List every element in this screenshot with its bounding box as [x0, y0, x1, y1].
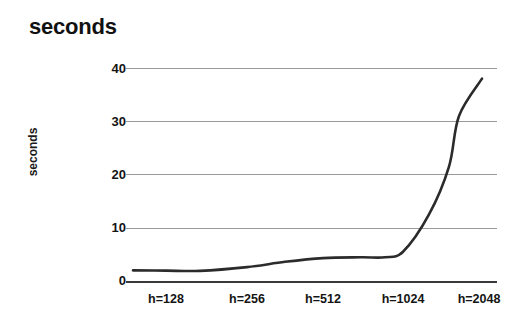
x-tick-label-h512: h=512: [305, 292, 341, 306]
plot-area: [133, 60, 497, 288]
y-tick-label-10: 10: [80, 221, 126, 234]
chart-title: seconds: [29, 14, 117, 40]
series-path-seconds: [133, 79, 482, 271]
y-tick-label-0: 0: [80, 274, 126, 287]
x-axis-tick-labels: h=128 h=256 h=512 h=1024 h=2048: [133, 292, 497, 312]
chart-container: seconds seconds 40 30 20 10 0 h=128 h=25…: [0, 0, 523, 324]
y-tick-label-20: 20: [80, 168, 126, 181]
series-line-seconds: [133, 60, 497, 288]
x-tick-label-h256: h=256: [229, 292, 265, 306]
y-tick-label-40: 40: [80, 62, 126, 75]
y-tick-label-30: 30: [80, 115, 126, 128]
y-axis-title: seconds: [26, 102, 40, 202]
x-tick-label-h1024: h=1024: [382, 292, 425, 306]
x-tick-label-h2048: h=2048: [458, 292, 501, 306]
x-tick-label-h128: h=128: [148, 292, 184, 306]
